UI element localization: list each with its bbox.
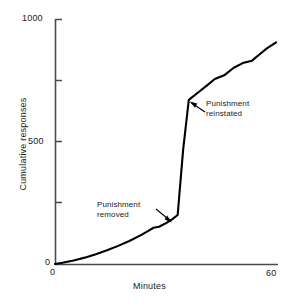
annotation-punishment-reinstated-line1: Punishment: [206, 99, 249, 109]
annotation-punishment-removed: Punishment removed: [97, 200, 140, 219]
x-axis-title: Minutes: [133, 281, 166, 291]
data-series-line: [55, 42, 276, 264]
x-tick-label-0: 0: [50, 267, 55, 277]
y-tick-label-1000: 1000: [22, 13, 43, 23]
cumulative-response-chart: 1000 500 0 0 60 Minutes Cumulative respo…: [0, 0, 294, 303]
annotation-punishment-removed-line2: removed: [97, 210, 140, 220]
annotation-punishment-reinstated-line2: reinstated: [206, 109, 249, 119]
y-axis-title: Cumulative responses: [18, 79, 28, 209]
x-tick-label-60: 60: [266, 268, 276, 278]
annotation-punishment-reinstated: Punishment reinstated: [206, 99, 249, 118]
annotation-punishment-removed-line1: Punishment: [97, 200, 140, 210]
y-tick-label-500: 500: [28, 136, 44, 146]
y-tick-label-0: 0: [45, 257, 50, 267]
annot-reinstated-arrowhead: [190, 102, 198, 108]
